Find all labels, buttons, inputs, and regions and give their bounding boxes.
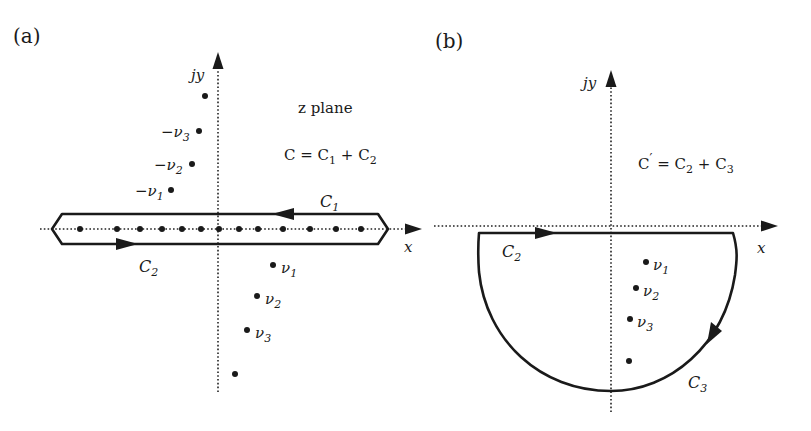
panel-b-y-axis-arrow-icon: [606, 70, 617, 87]
panel-a-y-axis-label: jy: [188, 66, 205, 84]
panel-a-x-axis-label: x: [404, 238, 413, 256]
panel-b: (b) jy x C′ = C2 + C3 C2 C3 ν1 ν2 ν3: [434, 29, 778, 412]
label-neg-v1: −ν1: [135, 182, 164, 203]
panel-a-equation: C = C1 + C2: [284, 146, 377, 167]
pole-neg-v3: [196, 128, 202, 134]
pole-b-v3: [627, 316, 633, 322]
pole-neg-v2: [189, 161, 195, 167]
c2-label: C2: [139, 257, 158, 279]
c1-direction-arrow-icon: [272, 208, 294, 220]
pole-v2: [254, 293, 260, 299]
panel-a-plane-label: z plane: [298, 99, 353, 117]
pole-v3: [244, 327, 250, 333]
panel-a-x-axis-arrow-icon: [405, 224, 422, 235]
pole-b-v2: [633, 285, 639, 291]
lower-poles: ν1 ν2 ν3: [232, 259, 297, 377]
label-v2: ν2: [265, 290, 281, 311]
panel-b-label: (b): [435, 29, 463, 53]
pole-b-extra: [626, 358, 632, 364]
pole-neg-v1: [168, 187, 174, 193]
c3-label: C3: [688, 373, 707, 395]
label-neg-v3: −ν3: [161, 123, 190, 144]
pole-b-v1: [643, 259, 649, 265]
panel-a-label: (a): [13, 24, 41, 48]
label-b-v1: ν1: [653, 256, 669, 277]
panel-b-x-axis-label: x: [757, 239, 766, 257]
c3-direction-arrow-icon: [707, 322, 722, 344]
c2-direction-arrow-icon: [116, 238, 138, 250]
pole-lower-extra: [232, 371, 238, 377]
panel-b-x-axis-arrow-icon: [761, 221, 778, 232]
label-v1: ν1: [281, 259, 297, 280]
label-b-v2: ν2: [643, 282, 659, 303]
c2-label-b: C2: [502, 242, 521, 264]
pole-v1: [270, 262, 276, 268]
c2-direction-arrow-icon-b: [535, 227, 557, 239]
panel-b-y-axis-label: jy: [580, 74, 597, 92]
label-v3: ν3: [255, 324, 271, 345]
label-neg-v2: −ν2: [154, 156, 183, 177]
pole-upper-extra: [202, 93, 208, 99]
contour-diagram: (a) jy x z plane C = C1 + C2 C1 C2: [0, 0, 811, 431]
upper-poles: −ν3 −ν2 −ν1: [135, 93, 208, 203]
c1-label: C1: [320, 192, 339, 214]
panel-b-equation: C′ = C2 + C3: [638, 151, 734, 176]
label-b-v3: ν3: [637, 313, 653, 334]
panel-b-poles: ν1 ν2 ν3: [626, 256, 669, 364]
panel-a-y-axis-arrow-icon: [213, 52, 224, 69]
panel-a: (a) jy x z plane C = C1 + C2 C1 C2: [13, 24, 422, 392]
